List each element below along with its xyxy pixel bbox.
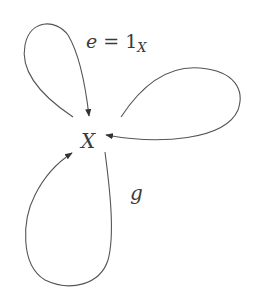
diagram-canvas: X e = 1X g	[0, 0, 259, 305]
g-loop-label: g	[130, 181, 143, 205]
label-equals: =	[97, 30, 125, 52]
identity-loop-label: e = 1X	[86, 30, 147, 55]
label-one: 1	[125, 30, 137, 52]
node-x-label: X	[79, 129, 96, 153]
label-subscript-x: X	[136, 40, 147, 55]
loop-edge-identity	[24, 24, 89, 117]
loop-edge-g	[26, 152, 112, 286]
loop-edge-right	[106, 68, 240, 140]
label-var-e: e	[86, 30, 97, 52]
